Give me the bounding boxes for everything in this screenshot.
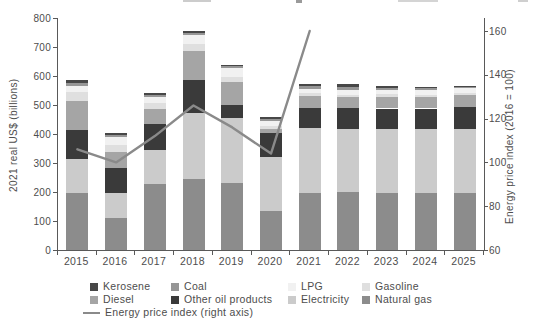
natural-gas-swatch-icon [362,296,370,304]
bar-segment-electricity-2018 [183,113,205,179]
left-tick-mark [53,163,57,164]
legend-item-other-oil-products: Other oil products [171,293,272,303]
left-tick-label: 800 [19,13,51,24]
legend-item-lpg: LPG [288,280,323,290]
x-tick-mark [289,251,290,255]
bar-segment-natural-gas-2016 [105,218,127,250]
price-index-line-swatch-icon [83,312,100,314]
bar-segment-natural-gas-2019 [221,183,243,250]
legend-item-diesel: Diesel [90,293,134,303]
left-tick-mark [53,105,57,106]
lpg-swatch-icon [288,283,296,291]
bar-segment-diesel-2018 [183,51,205,80]
right-tick-label: 80 [489,201,521,212]
x-tick-label-2022: 2022 [325,255,369,267]
x-tick-mark [57,251,58,255]
bar-segment-other-oil-products-2023 [376,109,398,130]
x-tick-label-2017: 2017 [132,255,176,267]
bar-segment-kerosene-2016 [105,133,127,135]
bar-segment-electricity-2023 [376,129,398,193]
bar-segment-kerosene-2024 [415,87,437,89]
bar-segment-natural-gas-2020 [260,211,282,250]
bar-segment-other-oil-products-2022 [337,108,359,129]
x-tick-label-2018: 2018 [171,255,215,267]
bar-segment-kerosene-2025 [454,86,476,87]
bar-segment-natural-gas-2022 [337,192,359,250]
bar-segment-diesel-2015 [66,101,88,130]
gasoline-swatch-icon [362,283,370,291]
bar-segment-electricity-2017 [144,150,166,184]
bar-segment-lpg-2025 [454,88,476,92]
right-tick-mark [484,206,488,207]
bar-segment-lpg-2022 [337,90,359,95]
bar-segment-other-oil-products-2016 [105,168,127,193]
right-tick-label: 140 [489,69,521,80]
bar-segment-kerosene-2019 [221,65,243,67]
bar-segment-diesel-2020 [260,129,282,133]
kerosene-swatch-icon [90,283,98,291]
right-tick-mark [484,31,488,32]
bar-segment-coal-2016 [105,135,127,137]
electricity-swatch-icon [288,296,296,304]
bar-segment-coal-2025 [454,87,476,88]
bar-segment-coal-2022 [337,87,359,89]
bar-segment-other-oil-products-2019 [221,105,243,119]
bar-segment-coal-2019 [221,66,243,67]
bar-segment-coal-2018 [183,33,205,35]
bar-segment-lpg-2020 [260,121,282,127]
legend-item-gasoline: Gasoline [362,280,419,290]
x-tick-label-2024: 2024 [403,255,447,267]
bar-segment-gasoline-2025 [454,93,476,95]
bar-segment-lpg-2018 [183,35,205,44]
left-tick-label: 600 [19,71,51,82]
bar-segment-natural-gas-2015 [66,193,88,250]
x-tick-mark [483,251,484,255]
other-oil-products-swatch-icon [171,296,179,304]
bar-segment-other-oil-products-2017 [144,124,166,150]
bar-segment-kerosene-2021 [299,84,321,87]
right-tick-mark [484,119,488,120]
bar-segment-coal-2024 [415,88,437,90]
bar-segment-natural-gas-2024 [415,193,437,250]
x-tick-mark [444,251,445,255]
bar-segment-electricity-2022 [337,129,359,192]
bar-segment-lpg-2016 [105,137,127,144]
x-tick-mark [134,251,135,255]
bar-segment-lpg-2023 [376,90,398,94]
left-tick-mark [53,221,57,222]
legend-item-kerosene: Kerosene [90,280,150,290]
bar-segment-diesel-2025 [454,95,476,107]
bar-segment-diesel-2023 [376,97,398,109]
bar-segment-electricity-2016 [105,193,127,219]
x-tick-mark [367,251,368,255]
legend-item-electricity: Electricity [288,293,349,303]
bar-segment-lpg-2021 [299,89,321,94]
bar-segment-kerosene-2020 [260,117,282,119]
bar-segment-diesel-2017 [144,109,166,124]
left-tick-label: 200 [19,187,51,198]
left-tick-label: 400 [19,129,51,140]
x-tick-label-2023: 2023 [364,255,408,267]
left-axis-title: 2021 real US$ (billions) [8,78,19,192]
bar-segment-diesel-2016 [105,152,127,168]
bar-segment-electricity-2024 [415,129,437,193]
right-tick-mark [484,162,488,163]
bar-segment-other-oil-products-2018 [183,80,205,112]
right-tick-label: 120 [489,113,521,124]
bar-segment-gasoline-2022 [337,95,359,97]
bar-segment-diesel-2024 [415,97,437,109]
bar-segment-coal-2021 [299,86,321,88]
bar-segment-natural-gas-2021 [299,193,321,250]
x-tick-mark [212,251,213,255]
left-tick-label: 500 [19,100,51,111]
bar-segment-kerosene-2015 [66,80,88,83]
left-tick-mark [53,76,57,77]
bar-segment-other-oil-products-2024 [415,109,437,130]
legend-item-natural-gas: Natural gas [362,293,432,303]
bar-segment-lpg-2017 [144,97,166,103]
bar-segment-gasoline-2018 [183,44,205,51]
bar-segment-electricity-2025 [454,129,476,192]
x-tick-label-2015: 2015 [54,255,98,267]
bar-segment-other-oil-products-2020 [260,133,282,156]
left-tick-mark [53,134,57,135]
